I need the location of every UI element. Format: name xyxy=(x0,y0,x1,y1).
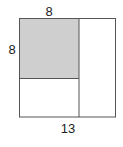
bottom-side-label: 13 xyxy=(61,121,75,136)
left-side-label: 8 xyxy=(8,42,15,57)
shaded-square xyxy=(20,19,80,79)
top-side-label: 8 xyxy=(45,4,52,19)
square-diagram: 8 8 13 xyxy=(0,0,123,147)
